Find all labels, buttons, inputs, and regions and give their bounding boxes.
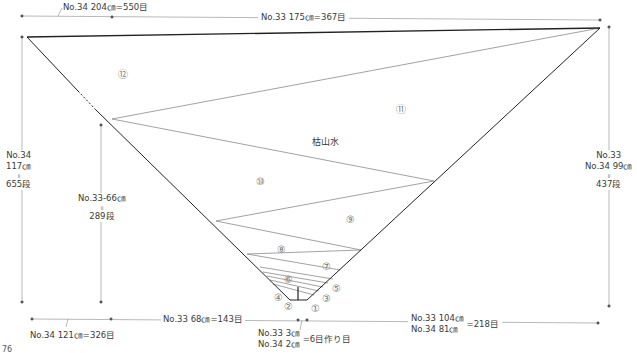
region-7: ⑦	[322, 262, 331, 272]
right-line1: No.33	[585, 150, 632, 161]
top-right-dimension: No.33 175㎝=367目	[258, 12, 349, 23]
region-4: ④	[274, 293, 283, 303]
left-inner-line1: No.33-66㎝	[78, 193, 126, 204]
cast-on-dimension: No.33 3㎝ No.34 2㎝ =6目作り目	[258, 328, 351, 350]
left-outer-line1: No.34	[6, 150, 31, 161]
left-outer-line3: 655段	[6, 179, 31, 190]
bottom-right-suffix: =218目	[467, 319, 499, 329]
left-dimension-lines	[21, 36, 103, 304]
page-number: 76	[2, 345, 12, 353]
left-inner-eq: ॥	[78, 204, 126, 211]
right-line3: 437段	[585, 179, 632, 190]
region-3: ③	[322, 294, 331, 304]
left-outer-dimension: No.34 117㎝ ॥ 655段	[6, 150, 31, 190]
cast-on-line2: No.34 2㎝	[258, 339, 300, 350]
top-left-dimension: No.34 204㎝=550目	[63, 2, 148, 13]
left-outer-eq: ॥	[6, 172, 31, 179]
region-9: ⑨	[346, 215, 355, 225]
bottom-left-dimension: No.34 121㎝=326目	[30, 330, 115, 341]
region-1: ①	[311, 304, 320, 314]
left-outer-line2: 117㎝	[6, 161, 31, 172]
region-11: ⑪	[396, 105, 406, 115]
region-12: ⑫	[118, 70, 128, 80]
knitting-shawl-diagram	[0, 0, 637, 353]
region-5: ⑤	[332, 284, 341, 294]
pattern-title: 枯山水	[312, 135, 339, 148]
right-line2: No.34 99㎝	[585, 161, 632, 172]
left-inner-line2: 289段	[78, 211, 126, 222]
bottom-right-line1: No.33 104㎝	[411, 313, 464, 324]
cast-on-line1: No.33 3㎝	[258, 328, 300, 339]
region-8: ⑧	[277, 245, 286, 255]
left-inner-dimension: No.33-66㎝ ॥ 289段	[78, 193, 126, 222]
bottom-mid-dimension: No.33 68㎝=143目	[161, 314, 245, 325]
region-6: ⑥	[284, 275, 293, 285]
region-2: ②	[284, 302, 293, 312]
bottom-right-dimension: No.33 104㎝ No.34 81㎝ =218目	[408, 313, 502, 335]
bottom-right-line2: No.34 81㎝	[411, 324, 464, 335]
region-10: ⑩	[256, 177, 265, 187]
cast-on-suffix: =6目作り目	[303, 334, 352, 344]
shawl-outline	[27, 28, 600, 300]
right-eq: ॥	[585, 172, 632, 179]
right-dimension: No.33 No.34 99㎝ ॥ 437段	[585, 150, 632, 190]
